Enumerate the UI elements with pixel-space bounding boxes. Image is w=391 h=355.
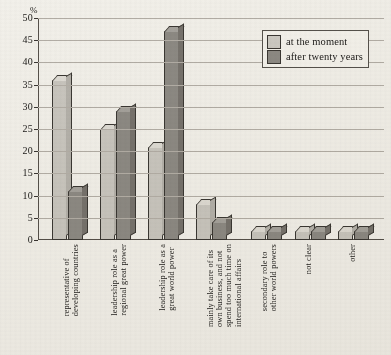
bar-side-face [281,224,287,236]
x-axis-label-line: secondary role to [260,244,269,311]
x-axis-category-label: representative ofdeveloping countries [62,244,80,316]
gridline [38,173,384,174]
x-axis-label-line: regional great power [119,244,128,316]
y-axis-tick-label: 20 [7,146,33,156]
y-axis-tick-mark [34,218,38,219]
y-axis-tick-label: 5 [7,213,33,223]
y-axis-tick-mark [34,40,38,41]
y-axis-tick-label: 50 [7,13,33,23]
bar-side-face [130,104,136,236]
x-axis-label-line: other [348,244,357,262]
y-axis-tick-mark [34,196,38,197]
x-axis-category-label: other [348,244,357,262]
x-axis-label-line: representative of [62,244,71,316]
bar [68,191,83,240]
x-axis-label-line: spend too much time on [224,244,233,327]
gridline [38,151,384,152]
y-axis-tick-label: 10 [7,191,33,201]
y-axis-tick-label: 15 [7,168,33,178]
y-axis-tick-mark [34,129,38,130]
bar [267,231,282,240]
x-axis-label-line: leadership role as a [158,244,167,311]
bar [52,80,67,240]
bar [212,222,227,240]
bar [354,231,369,240]
y-axis-tick-label: 30 [7,102,33,112]
x-axis-label-line: mainly take care of its [206,244,215,327]
bar [196,204,211,240]
x-axis-label-line: own business, and not [215,244,224,327]
gridline [38,129,384,130]
y-axis-tick-mark [34,18,38,19]
legend-label: after twenty years [286,51,363,62]
bar [100,129,115,240]
bar-chart: % 50454035302520151050 at the momentafte… [0,0,391,355]
x-axis-label-line: international affairs [234,244,243,327]
x-axis-label-line: other world powers [269,244,278,311]
gridline [38,196,384,197]
y-axis-tick-mark [34,107,38,108]
x-axis-category-label: leadership role as aregional great power [110,244,128,316]
bar [251,231,266,240]
gridline [38,18,384,19]
gridline [38,218,384,219]
y-axis-tick-label: 0 [7,235,33,245]
y-axis-tick-labels: 50454035302520151050 [5,0,33,355]
y-axis-tick-mark [34,62,38,63]
bar [311,231,326,240]
x-axis-label-line: great world power [167,244,176,311]
bar [338,231,353,240]
y-axis-tick-label: 25 [7,124,33,134]
legend: at the momentafter twenty years [262,30,369,68]
y-axis-tick-mark [34,173,38,174]
bar-side-face [82,184,88,236]
y-axis-tick-label: 45 [7,35,33,45]
x-axis-category-labels: representative ofdeveloping countrieslea… [38,244,384,355]
x-axis-label-line: developing countries [71,244,80,316]
y-axis-tick-mark [34,240,38,241]
y-axis-tick-mark [34,151,38,152]
bar [148,147,163,240]
y-axis-tick-label: 40 [7,57,33,67]
x-axis-category-label: not clear [304,244,313,274]
gridline [38,85,384,86]
x-axis-category-label: leadership role as agreat world power [158,244,176,311]
bar [116,111,131,240]
gridline [38,107,384,108]
legend-label: at the moment [286,36,347,47]
y-axis-tick-mark [34,85,38,86]
legend-item: after twenty years [267,49,363,64]
bar [295,231,310,240]
bar-side-face [325,224,331,236]
y-axis-tick-label: 35 [7,80,33,90]
x-axis-label-line: not clear [304,244,313,274]
legend-item: at the moment [267,34,363,49]
x-axis-label-line: leadership role as a [110,244,119,316]
legend-swatch [267,50,281,64]
x-axis-category-label: mainly take care of itsown business, and… [206,244,243,327]
x-axis-category-label: secondary role toother world powers [260,244,278,311]
bar-side-face [368,224,374,236]
legend-swatch [267,35,281,49]
